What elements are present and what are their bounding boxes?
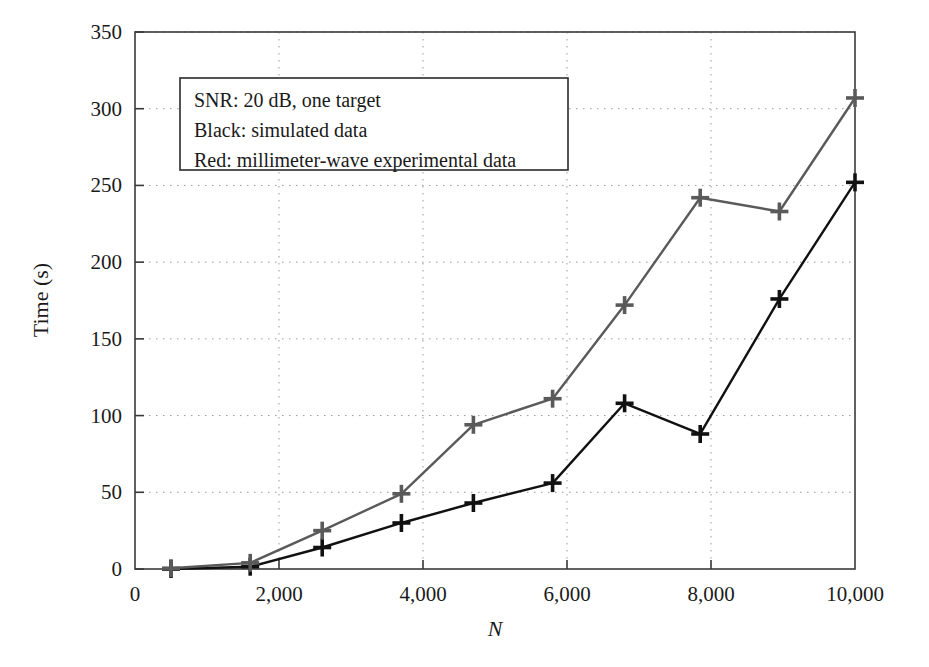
chart-figure: 050100150200250300350 02,0004,0006,0008,… bbox=[0, 0, 929, 667]
y-tick-label-50: 50 bbox=[101, 480, 122, 504]
x-tick-label-4000: 4,000 bbox=[399, 582, 446, 606]
x-axis-title: N bbox=[487, 616, 504, 641]
y-tick-label-200: 200 bbox=[91, 250, 123, 274]
legend-line-snr: SNR: 20 dB, one target bbox=[194, 89, 381, 112]
y-tick-label-300: 300 bbox=[91, 97, 123, 121]
x-tick-label-8000: 8,000 bbox=[687, 582, 734, 606]
x-tick-label-0: 0 bbox=[130, 582, 141, 606]
legend-line-black: Black: simulated data bbox=[194, 119, 367, 141]
x-tick-label-6000: 6,000 bbox=[543, 582, 590, 606]
y-tick-label-250: 250 bbox=[91, 173, 123, 197]
y-tick-label-150: 150 bbox=[91, 327, 123, 351]
y-tick-label-100: 100 bbox=[91, 404, 123, 428]
legend-box: SNR: 20 dB, one target Black: simulated … bbox=[180, 78, 568, 172]
x-tick-label-10000: 10,000 bbox=[826, 582, 884, 606]
x-tick-label-2000: 2,000 bbox=[255, 582, 302, 606]
legend-line-red: Red: millimeter-wave experimental data bbox=[194, 149, 516, 172]
y-tick-label-0: 0 bbox=[112, 557, 123, 581]
y-tick-label-350: 350 bbox=[91, 20, 123, 44]
y-axis-title: Time (s) bbox=[28, 263, 53, 337]
